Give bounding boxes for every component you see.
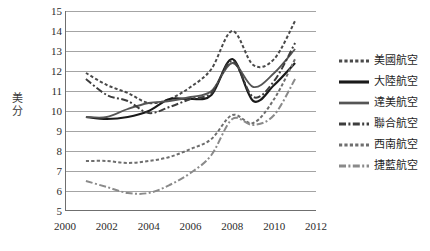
x-tick-label: 2012 [296,221,336,232]
legend-item[interactable]: 美國航空 [338,50,430,71]
x-tick-label: 2010 [254,221,294,232]
legend-swatch-icon [338,161,370,171]
legend-label: 美國航空 [374,55,418,66]
series-line [86,49,295,118]
x-tick-label: 2006 [171,221,211,232]
series-line [86,21,295,103]
legend-item[interactable]: 捷藍航空 [338,155,430,176]
plot-area [65,11,316,211]
series-line [86,59,295,163]
legend-label: 捷藍航空 [374,160,418,171]
x-tick-label: 2000 [45,221,85,232]
x-tick-label: 2008 [212,221,252,232]
legend-label: 聯合航空 [374,118,418,129]
series-line [86,43,295,113]
x-tick-label: 2002 [87,221,127,232]
legend-swatch-icon [338,119,370,129]
legend-item[interactable]: 西南航空 [338,134,430,155]
legend-swatch-icon [338,140,370,150]
legend-label: 西南航空 [374,139,418,150]
legend-swatch-icon [338,77,370,87]
plot-svg [65,11,316,211]
chart-figure: 美 分 15141312111098765 200020022004200620… [0,0,430,251]
legend-swatch-icon [338,98,370,108]
legend-label: 大陸航空 [374,76,418,87]
legend-label: 達美航空 [374,97,418,108]
x-tick-label: 2004 [129,221,169,232]
legend-item[interactable]: 達美航空 [338,92,430,113]
legend-item[interactable]: 大陸航空 [338,71,430,92]
legend-item[interactable]: 聯合航空 [338,113,430,134]
legend-swatch-icon [338,56,370,66]
chart-legend: 美國航空大陸航空達美航空聯合航空西南航空捷藍航空 [338,50,430,176]
